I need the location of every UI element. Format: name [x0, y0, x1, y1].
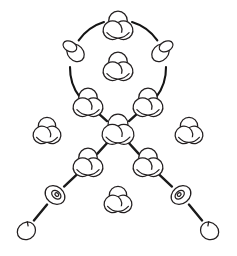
knot-node-free-bottom[interactable]	[101, 186, 135, 216]
circle-arc	[79, 22, 104, 40]
tree-edge	[158, 174, 172, 187]
knot-diagram-figure	[0, 0, 237, 256]
unknot-nib	[208, 222, 209, 226]
tree-edge	[128, 142, 139, 154]
tree-edge	[64, 174, 78, 187]
knot-node-circle-center[interactable]	[100, 52, 137, 84]
unknot-loop	[201, 222, 219, 240]
tree-edge	[34, 205, 47, 221]
knot-node-upper-right[interactable]	[148, 39, 175, 66]
tree-edge	[189, 205, 202, 221]
knot-node-free-right[interactable]	[172, 117, 206, 147]
knot-node-leaf-right[interactable]	[201, 222, 219, 240]
diagram-canvas	[0, 0, 237, 256]
unknot-loop	[17, 222, 35, 240]
unknot-nib	[27, 222, 28, 226]
knot-node-free-left[interactable]	[30, 117, 64, 147]
knot-node-leaf-left[interactable]	[17, 222, 35, 240]
knot-node-upper-left[interactable]	[61, 39, 88, 66]
circle-arc	[70, 67, 80, 97]
circle-arc	[156, 67, 166, 97]
tree-edge	[97, 142, 108, 154]
knot-node-top[interactable]	[100, 11, 137, 43]
circle-arc	[132, 22, 157, 40]
